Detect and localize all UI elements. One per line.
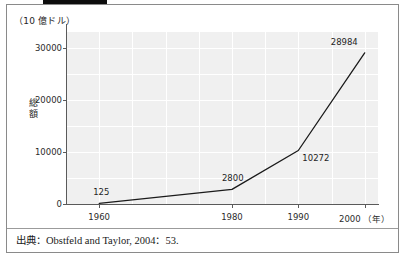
figure-root: （10 億ドル） 総額 0100002000030000 19601980199…: [0, 0, 406, 260]
x-tick-label: 1960: [88, 212, 110, 222]
y-tick-mark: [63, 204, 66, 205]
gridline-horizontal: [66, 152, 378, 153]
x-tick-mark: [232, 205, 233, 208]
data-point-label: 10272: [302, 153, 329, 163]
gridline-horizontal: [66, 48, 378, 49]
data-point-label: 125: [93, 187, 109, 197]
y-tick-mark: [63, 152, 66, 153]
y-tick-label: 30000: [35, 43, 62, 53]
source-note: 出典：Obstfeld and Taylor, 2004：53.: [16, 232, 179, 247]
data-point-label: 28984: [331, 37, 358, 47]
source-divider: [7, 228, 398, 229]
x-tick-label: 2000 （年）: [339, 212, 390, 224]
gridline-horizontal: [66, 100, 378, 101]
y-tick-label: 10000: [35, 147, 62, 157]
x-tick-label: 1980: [221, 212, 243, 222]
x-tick-mark: [298, 205, 299, 208]
x-axis-line: [66, 204, 379, 205]
gridline-horizontal-minor: [66, 126, 378, 127]
x-tick-label: 1990: [288, 212, 310, 222]
y-tick-label: 0: [57, 199, 62, 209]
y-tick-mark: [63, 48, 66, 49]
y-tick-label: 20000: [35, 95, 62, 105]
y-axis-line: [66, 24, 67, 204]
y-tick-mark: [63, 100, 66, 101]
x-tick-mark: [365, 205, 366, 208]
gridline-horizontal-minor: [66, 74, 378, 75]
y-axis-ticks: 0100002000030000: [0, 0, 62, 260]
x-tick-mark: [99, 205, 100, 208]
data-point-label: 2800: [222, 173, 244, 183]
